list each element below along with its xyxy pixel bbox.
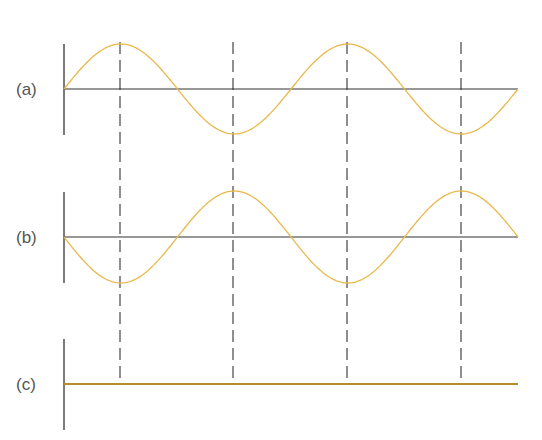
panel-c: (c) — [16, 339, 518, 430]
panel-b: (b) — [16, 191, 518, 283]
panel-label: (a) — [16, 80, 37, 99]
interference-diagram: (a)(b)(c) — [0, 0, 542, 440]
wave-panels: (a)(b)(c) — [16, 44, 518, 430]
panel-a: (a) — [16, 44, 518, 135]
panel-label: (b) — [16, 228, 37, 247]
panel-label: (c) — [16, 375, 36, 394]
dashed-guide-lines — [120, 42, 461, 384]
